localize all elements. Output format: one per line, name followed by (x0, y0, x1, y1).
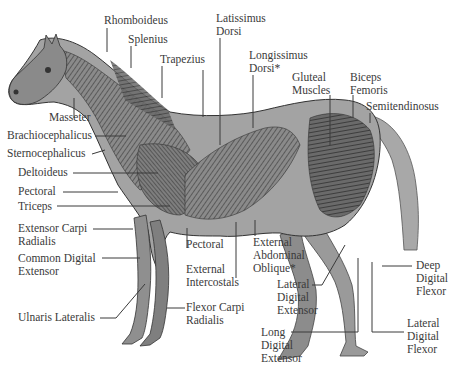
label-rhomboideus: Rhomboideus (104, 14, 168, 27)
horse-muscle-diagram: Rhomboideus Splenius Trapezius Latissimu… (0, 0, 453, 373)
label-deep-digital-flexor: Deep Digital Flexor (416, 259, 448, 298)
label-external-intercostals: External Intercostals (186, 263, 239, 289)
label-splenius: Splenius (128, 33, 168, 46)
label-biceps-femoris: Biceps Femoris (350, 71, 388, 97)
label-pectoral-bottom: Pectoral (186, 238, 224, 251)
label-latissimus-dorsi: Latissimus Dorsi (216, 12, 266, 38)
label-triceps: Triceps (18, 200, 52, 213)
label-brachiocephalicus: Brachiocephalicus (7, 129, 92, 142)
label-pectoral-left: Pectoral (18, 185, 56, 198)
label-sternocephalicus: Sternocephalicus (7, 147, 86, 160)
label-deltoideus: Deltoideus (18, 166, 68, 179)
label-lateral-digital-extensor: Lateral Digital Extensor (277, 278, 318, 317)
label-ulnaris-lateralis: Ulnaris Lateralis (18, 311, 95, 324)
horse-eye (45, 67, 51, 73)
label-long-digital-extensor: Long Digital Extensor (261, 326, 302, 365)
label-extensor-carpi-radialis: Extensor Carpi Radialis (18, 222, 87, 248)
label-external-abdominal-oblique: External Abdominal Oblique* (253, 236, 305, 275)
label-trapezius: Trapezius (160, 53, 205, 66)
label-masseter: Masseter (49, 111, 91, 124)
label-gluteal-muscles: Gluteal Muscles (292, 71, 330, 97)
label-lateral-digital-flexor: Lateral Digital Flexor (407, 317, 440, 356)
front-leg-near (122, 215, 151, 344)
label-common-digital-extensor: Common Digital Extensor (18, 252, 96, 278)
horse-nostril (14, 90, 19, 95)
label-semitendinosus: Semitendinosus (366, 100, 439, 113)
label-flexor-carpi-radialis: Flexor Carpi Radialis (186, 301, 244, 327)
